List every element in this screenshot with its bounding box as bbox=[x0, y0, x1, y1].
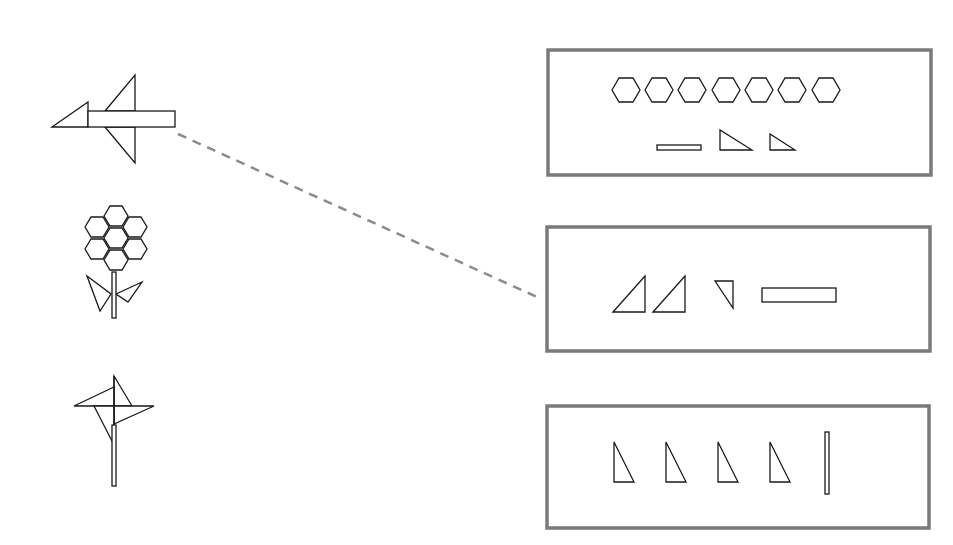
flower-hexagon-center bbox=[104, 228, 128, 248]
figure-flower[interactable] bbox=[85, 206, 147, 318]
hexagon-piece bbox=[645, 78, 673, 102]
piece-box-1-frame bbox=[548, 50, 931, 175]
piece-box-2-frame bbox=[547, 227, 930, 351]
hexagon-piece bbox=[678, 78, 706, 102]
pinwheel-bottom-triangle bbox=[94, 406, 114, 445]
flower-hexagon-upper-left bbox=[85, 217, 109, 237]
hexagon-piece bbox=[745, 78, 773, 102]
pinwheel-left-triangle bbox=[74, 387, 114, 406]
flower-left-leaf-triangle bbox=[87, 276, 111, 311]
airplane-top-wing-triangle bbox=[105, 75, 135, 111]
airplane-bottom-wing-triangle bbox=[105, 127, 135, 163]
flower-right-leaf-triangle bbox=[116, 282, 142, 302]
dashed-connector-line bbox=[178, 134, 537, 297]
figure-airplane[interactable] bbox=[52, 75, 175, 163]
hexagon-piece bbox=[778, 78, 806, 102]
hexagon-piece bbox=[812, 78, 840, 102]
piece-box-1[interactable] bbox=[548, 50, 931, 175]
airplane-body-rectangle bbox=[88, 111, 175, 127]
piece-box-2[interactable] bbox=[547, 227, 930, 351]
flower-hexagon-top bbox=[104, 206, 128, 226]
hexagon-piece bbox=[712, 78, 740, 102]
flower-hexagon-lower-left bbox=[85, 239, 109, 259]
matching-diagram bbox=[0, 0, 953, 545]
pinwheel-top-triangle bbox=[114, 376, 132, 406]
vertical-bar-piece bbox=[825, 432, 829, 494]
hexagon-piece bbox=[612, 78, 640, 102]
piece-box-3-frame bbox=[547, 406, 929, 528]
figure-pinwheel[interactable] bbox=[74, 376, 154, 486]
piece-box-3[interactable] bbox=[547, 406, 929, 528]
flower-hexagon-upper-right bbox=[123, 217, 147, 237]
flower-hexagon-lower-right bbox=[123, 239, 147, 259]
pinwheel-right-triangle bbox=[114, 406, 154, 424]
rectangle-piece bbox=[762, 288, 836, 302]
airplane-tail-triangle bbox=[52, 102, 88, 127]
thin-bar-piece bbox=[657, 145, 701, 150]
flower-hexagon-bottom bbox=[104, 250, 128, 270]
flower-stem-bar bbox=[112, 272, 116, 318]
pinwheel-stick-bar bbox=[112, 425, 116, 486]
